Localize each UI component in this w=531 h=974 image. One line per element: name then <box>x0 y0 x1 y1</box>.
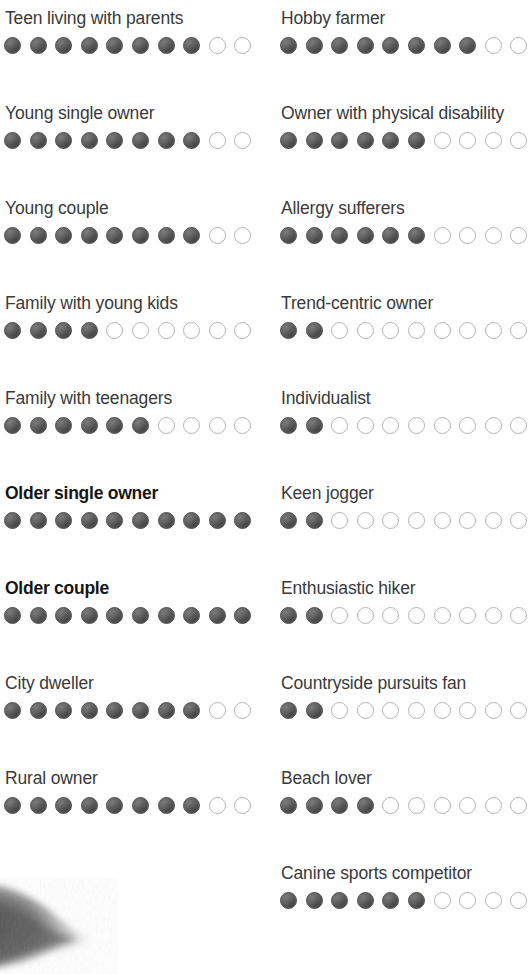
profile-row: City dweller <box>4 673 254 745</box>
rating-dot-empty <box>434 892 451 909</box>
profile-label: Enthusiastic hiker <box>281 578 530 599</box>
rating-dot-filled <box>306 417 323 434</box>
rating-dot-empty <box>234 37 251 54</box>
rating-dot-empty <box>183 322 200 339</box>
rating-dot-empty <box>331 702 348 719</box>
rating-dot-empty <box>485 417 502 434</box>
rating-dot-filled <box>55 512 72 529</box>
rating-dot-filled <box>55 37 72 54</box>
rating-dot-empty <box>510 607 527 624</box>
rating-dot-empty <box>485 227 502 244</box>
rating-dot-empty <box>382 702 399 719</box>
rating-dots <box>4 702 254 722</box>
rating-dot-empty <box>382 417 399 434</box>
rating-dot-filled <box>382 37 399 54</box>
rating-dot-filled <box>132 797 149 814</box>
rating-dot-empty <box>459 797 476 814</box>
rating-dot-filled <box>280 702 297 719</box>
rating-dot-filled <box>280 322 297 339</box>
rating-dot-empty <box>510 797 527 814</box>
rating-dot-empty <box>132 322 149 339</box>
rating-dot-filled <box>106 227 123 244</box>
rating-dot-filled <box>357 37 374 54</box>
rating-dot-filled <box>30 227 47 244</box>
rating-dot-empty <box>209 227 226 244</box>
rating-dot-filled <box>4 132 21 149</box>
rating-dot-empty <box>434 227 451 244</box>
rating-dot-filled <box>408 892 425 909</box>
rating-dot-filled <box>183 702 200 719</box>
rating-dots <box>4 512 254 532</box>
rating-dot-empty <box>510 37 527 54</box>
rating-dot-empty <box>434 607 451 624</box>
rating-dot-filled <box>408 227 425 244</box>
rating-dots <box>280 797 530 817</box>
rating-dot-filled <box>132 702 149 719</box>
rating-dot-filled <box>158 132 175 149</box>
rating-dot-filled <box>55 702 72 719</box>
rating-dot-empty <box>510 132 527 149</box>
rating-dots <box>4 132 254 152</box>
rating-dot-empty <box>234 702 251 719</box>
rating-dot-empty <box>209 322 226 339</box>
rating-dot-filled <box>55 797 72 814</box>
rating-dot-empty <box>234 322 251 339</box>
rating-dot-empty <box>485 702 502 719</box>
rating-dot-filled <box>331 227 348 244</box>
rating-dot-filled <box>30 702 47 719</box>
profile-row: Older couple <box>4 578 254 650</box>
rating-dot-filled <box>81 702 98 719</box>
profile-label: Older single owner <box>5 483 254 504</box>
rating-dot-filled <box>81 322 98 339</box>
profile-label: Individualist <box>281 388 530 409</box>
rating-dot-filled <box>280 512 297 529</box>
rating-dot-filled <box>106 607 123 624</box>
rating-dot-filled <box>4 322 21 339</box>
profile-label: Countryside pursuits fan <box>281 673 530 694</box>
rating-dot-empty <box>485 607 502 624</box>
rating-dot-empty <box>357 417 374 434</box>
rating-dot-filled <box>158 797 175 814</box>
rating-dot-filled <box>459 37 476 54</box>
rating-dot-filled <box>4 797 21 814</box>
profile-label: Family with young kids <box>5 293 254 314</box>
rating-dot-empty <box>485 322 502 339</box>
profile-row: Trend-centric owner <box>280 293 530 365</box>
rating-dot-filled <box>81 37 98 54</box>
rating-dot-filled <box>30 512 47 529</box>
profile-label: Teen living with parents <box>5 8 254 29</box>
rating-dot-filled <box>357 892 374 909</box>
rating-dot-empty <box>408 417 425 434</box>
profile-row: Owner with physical disability <box>280 103 530 175</box>
profile-row: Young single owner <box>4 103 254 175</box>
rating-dot-filled <box>81 417 98 434</box>
rating-dots <box>280 892 530 912</box>
rating-dot-filled <box>55 417 72 434</box>
profile-label: Young couple <box>5 198 254 219</box>
rating-dot-empty <box>234 132 251 149</box>
rating-dot-empty <box>408 797 425 814</box>
rating-dots <box>280 607 530 627</box>
rating-dot-empty <box>183 417 200 434</box>
rating-dot-empty <box>459 322 476 339</box>
rating-dot-filled <box>81 227 98 244</box>
rating-dot-empty <box>158 322 175 339</box>
profile-row: Older single owner <box>4 483 254 555</box>
rating-dot-empty <box>459 892 476 909</box>
profile-label: Keen jogger <box>281 483 530 504</box>
rating-dot-filled <box>357 132 374 149</box>
rating-dot-empty <box>459 512 476 529</box>
rating-dot-filled <box>408 37 425 54</box>
rating-dot-empty <box>485 892 502 909</box>
rating-dot-filled <box>158 702 175 719</box>
rating-dot-filled <box>30 37 47 54</box>
profile-row: Beach lover <box>280 768 530 840</box>
profile-row: Young couple <box>4 198 254 270</box>
rating-dot-filled <box>331 132 348 149</box>
rating-dot-filled <box>280 132 297 149</box>
rating-dots <box>4 227 254 247</box>
rating-dots <box>280 37 530 57</box>
profile-row: Individualist <box>280 388 530 460</box>
rating-dot-filled <box>81 512 98 529</box>
profile-row: Countryside pursuits fan <box>280 673 530 745</box>
